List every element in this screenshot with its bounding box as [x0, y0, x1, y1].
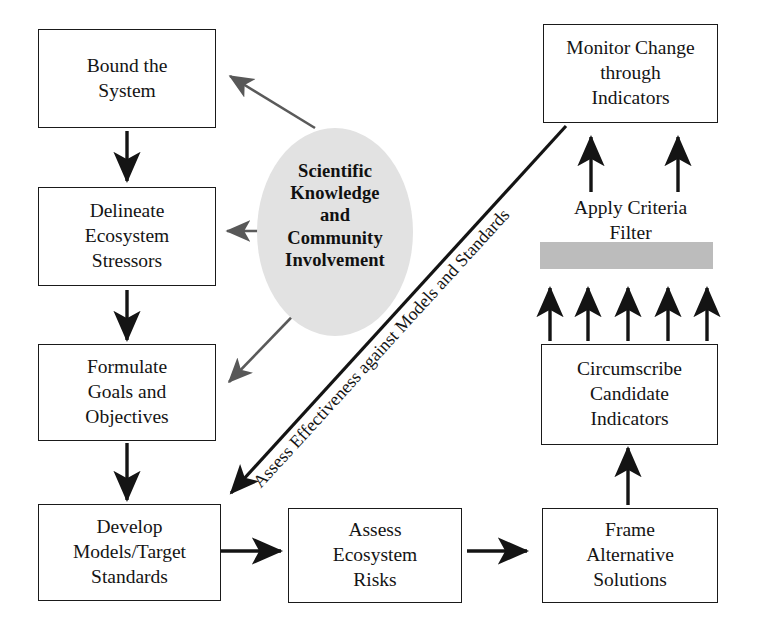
arrow-ellipse-to-bound — [230, 76, 315, 128]
box-circumscribe-candidate-indicators[interactable]: CircumscribeCandidateIndicators — [541, 344, 718, 445]
criteria-filter-bar — [540, 242, 713, 269]
box-monitor-change-through-indicators[interactable]: Monitor ChangethroughIndicators — [543, 24, 718, 123]
arrows-circumscribe-to-filter — [550, 288, 707, 341]
box-delineate-ecosystem-stressors[interactable]: DelineateEcosystemStressors — [38, 187, 216, 286]
box-assess-ecosystem-risks[interactable]: AssessEcosystemRisks — [288, 508, 462, 603]
scientific-knowledge-ellipse-label: ScientificKnowledgeandCommunityInvolveme… — [262, 160, 408, 271]
box-frame-alternative-solutions[interactable]: FrameAlternativeSolutions — [542, 508, 718, 603]
box-formulate-goals-and-objectives[interactable]: FormulateGoals andObjectives — [38, 344, 216, 441]
arrows-filter-to-monitor — [591, 137, 678, 192]
flowchart-diagram: ScientificKnowledgeandCommunityInvolveme… — [0, 0, 757, 641]
box-bound-the-system[interactable]: Bound theSystem — [38, 29, 216, 128]
box-develop-models-target-standards[interactable]: DevelopModels/TargetStandards — [38, 504, 221, 601]
apply-criteria-filter-label: Apply CriteriaFilter — [548, 196, 713, 245]
